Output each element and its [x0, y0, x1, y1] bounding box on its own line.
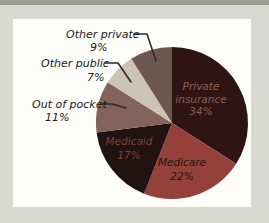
label-other-private: Other private — [66, 28, 140, 41]
label-private-insurance-line1: Private — [151, 80, 251, 93]
label-private-insurance-line2: insurance — [151, 93, 251, 106]
label-other-private-pct: 9% — [90, 41, 107, 54]
label-other-public: Other public — [41, 57, 109, 70]
label-other-public-pct: 7% — [87, 71, 104, 84]
label-medicare-pct: 22% — [137, 170, 227, 184]
label-out-of-pocket-pct: 11% — [45, 111, 69, 124]
pie-chart-figure: Other private 9% Other public 7% Out of … — [0, 0, 269, 223]
label-private-insurance-pct: 34% — [151, 105, 251, 118]
label-medicaid-pct: 17% — [84, 149, 174, 163]
label-medicaid: Medicaid 17% — [84, 135, 174, 162]
label-out-of-pocket: Out of pocket — [32, 98, 107, 111]
label-medicaid-name: Medicaid — [84, 135, 174, 149]
label-private-insurance: Private insurance 34% — [151, 80, 251, 118]
